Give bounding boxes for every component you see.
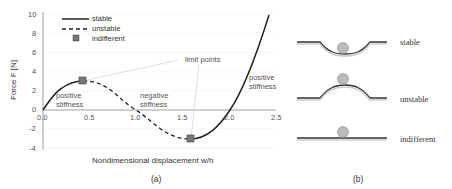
stable-diagram	[297, 42, 387, 56]
indifferent-diagram	[297, 127, 387, 141]
limit-point-min	[187, 135, 194, 142]
legend-label-indifferent: indifferent	[92, 35, 125, 43]
figure: 10 8 6 4 2 0 -2 -4 0.0 0.5 1.0 1.5 2.0 2…	[0, 0, 452, 189]
annotation-negative-stiffness-b: stiffness	[140, 101, 167, 109]
state-label-indifferent: indifferent	[400, 135, 436, 144]
y-tick: 4	[32, 68, 36, 76]
x-tick: 0.5	[84, 114, 94, 122]
x-tick: 0.0	[37, 114, 47, 122]
y-axis-label: Force F [N]	[10, 60, 18, 100]
y-tick: -4	[29, 145, 36, 153]
annotation-positive-stiffness-2a: positive	[249, 74, 274, 82]
x-tick: 1.5	[177, 114, 187, 122]
leader-line-2	[191, 64, 199, 138]
y-tick: 2	[32, 87, 36, 95]
panel-b-label: (b)	[353, 175, 363, 184]
annotation-negative-stiffness-a: negative	[140, 92, 168, 100]
x-axis-label: Nondimensional displacement w/h	[92, 157, 213, 165]
annotation-positive-stiffness-1a: positive	[56, 92, 81, 100]
leader-line-1	[83, 60, 178, 81]
x-tick: 2.0	[224, 114, 234, 122]
state-label-stable: stable	[400, 38, 420, 47]
x-tick: 1.0	[130, 114, 140, 122]
legend-label-stable: stable	[92, 15, 112, 23]
y-tick: 0	[32, 106, 36, 114]
x-tick: 2.5	[271, 114, 281, 122]
annotation-positive-stiffness-1b: stiffness	[56, 101, 83, 109]
annotation-positive-stiffness-2b: stiffness	[249, 83, 276, 91]
y-tick: 10	[28, 11, 36, 19]
legend	[62, 19, 89, 41]
y-tick: 8	[32, 30, 36, 38]
annotation-limit-points: limit points	[185, 56, 220, 64]
unstable-diagram	[297, 74, 387, 101]
y-tick: -2	[29, 125, 36, 133]
y-tick: 6	[32, 49, 36, 57]
state-label-unstable: unstable	[400, 95, 428, 104]
legend-label-unstable: unstable	[92, 25, 120, 33]
limit-point-max	[79, 77, 86, 84]
panel-a-label: (a)	[151, 175, 161, 184]
